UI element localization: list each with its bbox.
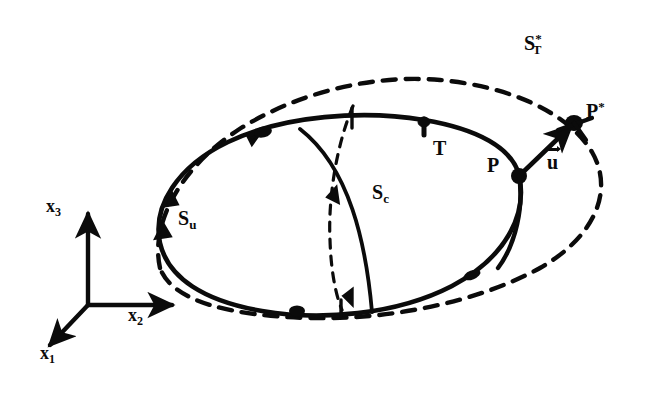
traction-vector-group (418, 117, 430, 135)
label-s-t-star-sub: T (533, 42, 542, 57)
axis-label-x1-sub: 1 (49, 352, 55, 366)
coordinate-axes (50, 214, 172, 345)
cut-surface-hidden-arc (330, 106, 353, 310)
cut-arrow-mid (328, 188, 338, 202)
axis-label-x2-base: x (128, 305, 137, 325)
axis-label-x3-base: x (46, 196, 55, 216)
displacement-arrow (519, 126, 571, 176)
label-traction-base: T (433, 137, 446, 159)
cut-back-path (330, 106, 353, 310)
label-point-p-star: P* (586, 100, 605, 121)
p-tail-path (498, 176, 520, 268)
displacement-arrow-group (519, 126, 571, 176)
label-s-c: Sc (372, 182, 389, 205)
label-s-u-sub: u (189, 217, 196, 232)
node-bottom-blob (289, 306, 305, 317)
axis-label-x1: x1 (40, 344, 55, 365)
label-traction-vector: T (433, 138, 446, 158)
label-point-p: P (487, 155, 499, 175)
label-s-c-sub: c (383, 191, 389, 206)
label-displacement-base: u (547, 151, 558, 173)
label-point-p-star-base: P (586, 100, 598, 122)
su-boundary-tick-marks (156, 130, 262, 238)
deformation-diagram (0, 0, 655, 401)
label-displacement-vector: u (547, 152, 558, 172)
axis-label-x1-base: x (40, 343, 49, 363)
traction-vector-wrap: T (433, 138, 446, 158)
axis-label-x3-sub: 3 (55, 205, 61, 219)
cut-arrow-low (344, 290, 352, 304)
label-s-t-star: S*T (524, 32, 541, 56)
axis-x1-line (50, 305, 88, 345)
label-s-u: Su (178, 208, 196, 231)
axis-label-x2-sub: 2 (137, 314, 143, 328)
traction-vector-head (418, 117, 430, 127)
axis-label-x3: x3 (46, 197, 61, 218)
label-s-u-base: S (178, 207, 189, 229)
p-tail-segment (498, 176, 520, 268)
displacement-vector-overbar (546, 148, 559, 151)
label-point-p-star-sup: * (598, 99, 605, 114)
figure-root: x3 x2 x1 Su Sc S*T P P* T u (0, 0, 655, 401)
label-s-c-base: S (372, 181, 383, 203)
axis-label-x2: x2 (128, 306, 143, 327)
displacement-vector-wrap: u (547, 152, 558, 172)
label-point-p-base: P (487, 154, 499, 176)
